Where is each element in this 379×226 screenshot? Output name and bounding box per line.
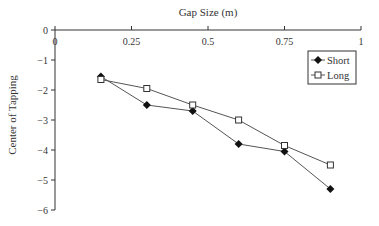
y-tick-label: −5	[37, 175, 48, 186]
legend-marker-long	[315, 72, 321, 78]
data-point-long	[190, 102, 196, 108]
y-tick-label: −3	[37, 115, 48, 126]
data-point-short	[143, 101, 151, 109]
series-line-long	[101, 80, 331, 166]
x-tick-label: 0.75	[276, 36, 294, 47]
data-point-long	[327, 162, 333, 168]
legend-label-short: Short	[327, 55, 350, 66]
line-chart: Gap Size (m)00.250.50.7510−1−2−3−4−5−6Ce…	[0, 0, 379, 226]
y-tick-label: −1	[37, 55, 48, 66]
x-tick-label: 0.25	[123, 36, 141, 47]
y-tick-label: 0	[43, 25, 48, 36]
data-point-long	[98, 77, 104, 83]
y-tick-label: −6	[37, 205, 48, 216]
data-point-long	[144, 86, 150, 92]
data-point-short	[235, 140, 243, 148]
legend-label-long: Long	[327, 70, 350, 81]
x-tick-label: 0.5	[202, 36, 215, 47]
x-tick-label: 1	[359, 36, 364, 47]
data-point-long	[282, 143, 288, 149]
y-tick-label: −2	[37, 85, 48, 96]
y-tick-label: −4	[37, 145, 48, 156]
x-tick-label: 0	[53, 36, 58, 47]
data-point-long	[236, 117, 242, 123]
y-axis-title: Center of Tapping	[6, 75, 18, 155]
series-line-short	[101, 77, 331, 190]
x-axis-title: Gap Size (m)	[179, 6, 238, 19]
